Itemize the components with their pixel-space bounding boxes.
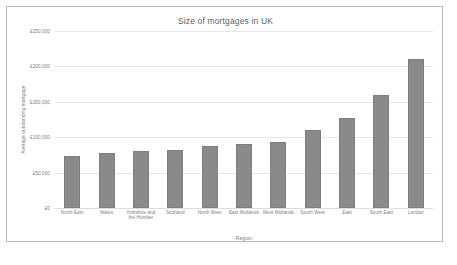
chart-page: Size of mortgages in UK Average outstand… [0,0,457,265]
y-axis-tick-label: £250,000 [30,29,50,34]
x-axis-tick-label: East Midlands [227,210,261,215]
y-axis-tick-label: £50,000 [33,170,50,175]
bar-series [55,31,433,208]
x-axis-title: Region [55,235,433,241]
bar-slot [399,31,433,208]
plot-area: £0£50,000£100,000£150,000£200,000£250,00… [55,31,433,208]
bar-slot [55,31,89,208]
bar-slot [261,31,295,208]
x-axis-tick-label: East [330,210,364,215]
bar [99,153,115,208]
bar [133,151,149,208]
bar [167,150,183,208]
x-axis-tick-label: Yorkshire and the Humber [124,210,158,221]
bar-slot [124,31,158,208]
bar-slot [364,31,398,208]
bar-slot [227,31,261,208]
bar [339,118,355,208]
bar [236,144,252,208]
bar [202,146,218,208]
x-axis-tick-label: North East [55,210,89,215]
x-axis-tick-label: Scotland [158,210,192,215]
x-axis-tick-labels: North EastWalesYorkshire and the HumberS… [55,210,433,221]
bar [305,130,321,208]
x-axis-tick-label: South West [296,210,330,215]
bar-slot [330,31,364,208]
y-axis-tick-label: £100,000 [30,135,50,140]
x-axis-tick-label: South East [364,210,398,215]
y-axis-title: Average outstanding mortgage [21,31,31,208]
bar [270,142,286,208]
x-axis-tick-label: North West [192,210,226,215]
x-axis-tick-label: London [399,210,433,215]
y-axis-tick-label: £150,000 [30,99,50,104]
bar-slot [192,31,226,208]
chart-title: Size of mortgages in UK [7,16,444,26]
chart-frame: Size of mortgages in UK Average outstand… [6,6,443,242]
x-axis-tick-label: West Midlands [261,210,295,215]
bar [373,95,389,208]
bar [64,156,80,208]
bar-slot [158,31,192,208]
y-axis-tick-label: £0 [45,206,50,211]
x-axis-tick-label: Wales [89,210,123,215]
bar-slot [296,31,330,208]
bar [408,59,424,208]
gridline [55,208,433,209]
bar-slot [89,31,123,208]
y-axis-tick-label: £200,000 [30,64,50,69]
